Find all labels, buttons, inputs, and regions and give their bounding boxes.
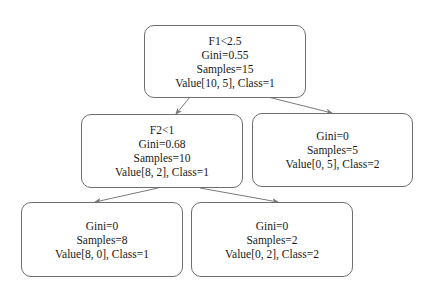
node-samples: Samples=5 xyxy=(307,143,358,157)
node-samples: Samples=2 xyxy=(246,233,297,247)
tree-node-root: F1<2.5 Gini=0.55 Samples=15 Value[10, 5]… xyxy=(144,25,306,98)
node-value-class: Value[8, 2], Class=1 xyxy=(115,165,209,179)
node-value-class: Value[0, 2], Class=2 xyxy=(225,247,319,261)
node-value-class: Value[0, 5], Class=2 xyxy=(286,157,380,171)
node-value-class: Value[8, 0], Class=1 xyxy=(55,247,149,261)
tree-node-left-left-leaf: Gini=0 Samples=8 Value[8, 0], Class=1 xyxy=(21,202,183,277)
edge-root-to-left xyxy=(176,97,190,114)
node-gini: Gini=0 xyxy=(256,219,289,233)
node-samples: Samples=15 xyxy=(197,62,254,76)
node-gini: Gini=0 xyxy=(86,219,119,233)
edge-left-to-left-right xyxy=(200,188,278,202)
node-samples: Samples=8 xyxy=(76,233,127,247)
tree-node-right-leaf: Gini=0 Samples=5 Value[0, 5], Class=2 xyxy=(252,113,413,187)
node-gini: Gini=0.55 xyxy=(201,48,248,62)
tree-node-left-right-leaf: Gini=0 Samples=2 Value[0, 2], Class=2 xyxy=(191,202,353,277)
node-value-class: Value[10, 5], Class=1 xyxy=(175,76,275,90)
edge-root-to-right xyxy=(268,97,332,113)
node-split-condition: F2<1 xyxy=(150,123,174,137)
node-gini: Gini=0.68 xyxy=(138,137,185,151)
node-split-condition: F1<2.5 xyxy=(208,34,241,48)
decision-tree-diagram: F1<2.5 Gini=0.55 Samples=15 Value[10, 5]… xyxy=(0,0,431,297)
node-gini: Gini=0 xyxy=(316,129,349,143)
tree-node-left: F2<1 Gini=0.68 Samples=10 Value[8, 2], C… xyxy=(81,114,243,188)
node-samples: Samples=10 xyxy=(134,151,191,165)
edge-left-to-left-left xyxy=(95,188,158,202)
